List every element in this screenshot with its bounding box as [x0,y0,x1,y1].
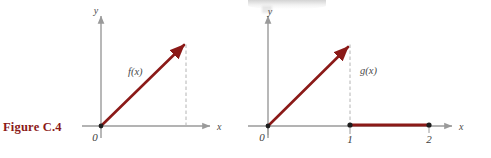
curve-label-fx: f(x) [128,66,143,78]
figure-container: Figure C.4 y x 0 [0,0,491,158]
y-axis-label: y [93,5,99,16]
origin-dot [99,124,104,129]
chart-right-gx: y x 0 1 2 g(x) [240,0,491,158]
curve-fx [101,45,184,126]
endpoint-dot-x2 [426,122,431,127]
x-tick-label-0: 0 [259,131,265,143]
endpoint-dot-x1 [347,122,352,127]
x-axis-label: x [458,121,464,132]
chart-left-fx: y x 0 f(x) [70,0,240,158]
x-axis-label: x [216,121,222,132]
figure-caption: Figure C.4 [3,120,62,135]
curve-label-gx: g(x) [360,65,377,77]
chart-right-svg: y x 0 1 2 g(x) [240,0,491,158]
curve-gx-rising [268,47,348,126]
x-tick-label-0: 0 [92,131,98,143]
origin-dot [266,124,271,129]
x-tick-label-2: 2 [426,133,432,145]
y-axis-label: y [267,6,273,17]
chart-left-svg: y x 0 f(x) [70,0,240,158]
x-tick-label-1: 1 [347,133,353,145]
